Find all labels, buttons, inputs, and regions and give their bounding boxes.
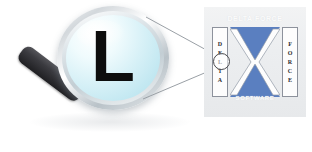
force-letter: E (288, 77, 292, 83)
image-scene: L DELTA FORCE D E L T A (0, 0, 312, 152)
magnifying-glass: L (0, 0, 200, 152)
panel-bottom-text: SOFTWARE (204, 95, 306, 101)
hourglass-icon (230, 27, 280, 97)
force-letter: F (288, 41, 292, 47)
delta-force-emblem: D E L T A F O R C E (212, 27, 298, 97)
force-letter: R (288, 59, 292, 65)
force-letter-box: F O R C E (282, 27, 298, 97)
magnified-letter: L (66, 15, 160, 101)
highlight-circle-icon (213, 53, 230, 70)
delta-letter: A (218, 77, 222, 83)
force-letter: O (288, 50, 293, 56)
magnifier-lens-ring: L (57, 6, 169, 110)
magnifier-lens-glass: L (66, 15, 160, 101)
delta-letter: D (218, 41, 222, 47)
force-letter: C (288, 68, 292, 74)
panel-top-text: DELTA FORCE (204, 15, 306, 22)
logo-panel: DELTA FORCE D E L T A F O R C E (204, 7, 306, 117)
